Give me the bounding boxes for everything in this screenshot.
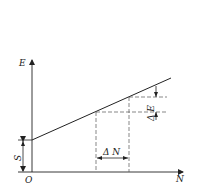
y-axis-label: E [18, 58, 26, 68]
delta-n-label: Δ N [102, 147, 121, 157]
delta-e-label: Δ E [146, 105, 156, 122]
x-axis-label: N [175, 174, 185, 184]
intercept-label: S [13, 155, 23, 161]
origin-label: O [25, 175, 33, 185]
energy-vs-n-diagram: E N O S Δ N Δ E [0, 0, 197, 195]
